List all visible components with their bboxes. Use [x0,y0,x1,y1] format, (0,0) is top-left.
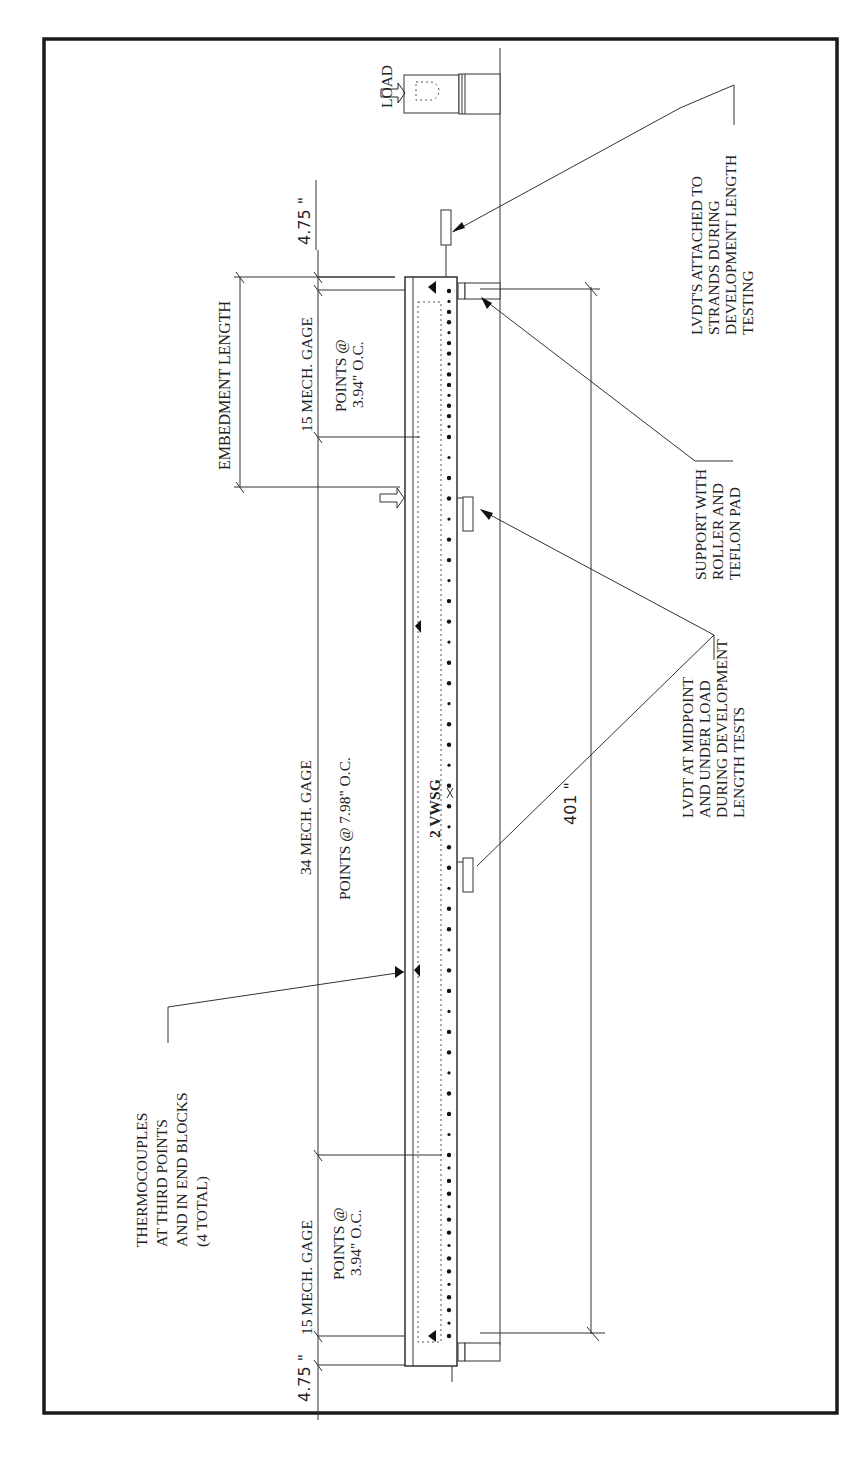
gage-point [447,518,450,521]
label-line: 3.94" O.C. [347,1209,364,1276]
gage-point [447,681,451,685]
gage-point [447,1295,451,1299]
label-line: STRANDS DURING [705,200,722,335]
leader-lvdt-mid-1 [481,510,714,635]
leader-support [482,298,695,461]
gage-point [447,702,450,705]
gage-point [447,394,450,397]
thermocouple-icon [428,1330,436,1342]
load-label: LOAD [378,65,395,108]
gage-point [447,414,451,418]
gage-point [447,1283,450,1286]
gage-point [447,341,451,345]
support-bottom [458,1343,500,1361]
gage-point [447,351,451,355]
lvdt-body [463,497,473,531]
gage-point [447,1030,451,1034]
thermocouple-icon [428,281,436,294]
gage-point [447,1091,451,1095]
gage-point [447,558,451,562]
gage-point [447,372,451,376]
label-line: AND UNDER LOAD [696,680,713,818]
gage-point [447,435,451,439]
embedment-length-label: EMBEDMENT LENGTH [216,301,233,470]
label-line: TEFLON PAD [726,487,743,580]
gage-point [447,1153,451,1157]
mech-gage-points [447,289,451,1338]
arrowhead-icon [480,509,493,520]
gage-point [447,784,451,788]
arrowhead-icon [395,966,404,978]
gage-point [447,722,451,726]
gage-point [447,743,451,747]
beam-instrumentation-diagram: LOAD LVDT'S ATTACHED TO STRANDS DURING D… [0,0,852,1461]
gage-mid-count: 34 MECH. GAGE [297,760,314,875]
gage-point [447,1050,451,1054]
gage-point [447,948,450,951]
load-cell [404,75,459,113]
label-line: SUPPORT WITH [692,469,709,580]
leader-lvdt-strands [453,108,680,232]
thermocouples-label: THERMOCOUPLES AT THIRD POINTS AND IN END… [133,1092,211,1247]
gage-point [447,887,450,890]
label-line: DEVELOPMENT LENGTH [722,155,739,335]
leader-thermocouples [168,972,404,1007]
support-pad [458,283,465,299]
gage-point [447,845,451,849]
gage-point [447,764,450,767]
gage-point [447,537,451,541]
label-line: 3.94" O.C. [349,341,366,408]
dim-end-bottom: 4.75 " [295,1354,314,1402]
lvdt-strand-body [441,210,451,245]
lvdt-third-point [457,497,473,531]
gage-point [447,989,451,993]
gage-point [447,1308,451,1312]
label-line: (4 TOTAL) [193,1176,211,1247]
gage-point [447,1179,451,1183]
label-line: POINTS @ [332,340,349,412]
tick [587,1327,599,1341]
gage-point [447,1192,451,1196]
gage-point [447,599,451,603]
gage-point [447,1133,450,1136]
label-line: ROLLER AND [709,483,726,580]
thermocouple-icon [414,964,420,977]
gage-point [447,1166,450,1169]
gage-point [447,425,450,428]
gage-point [447,825,450,828]
label-line: DURING DEVELOPMENT [713,639,730,818]
leader-lvdt-strands-2 [680,85,734,108]
support-roller [465,1343,500,1361]
gage-point [447,661,451,665]
gage-point [447,383,451,387]
lvdt-midpoint [457,858,473,892]
gage-point [447,1256,451,1260]
gage-point [447,804,451,808]
gage-point [447,907,451,911]
lvdt-body [463,858,473,892]
gage-point [447,1322,450,1325]
vwsg-label: 2 VWSG [426,779,443,838]
lvdt-strand-top [441,210,451,277]
gage-point [447,619,451,623]
gage-mid-spacing: POINTS @ 7.98" O.C. [336,757,353,900]
label-line: LVDT'S ATTACHED TO [688,176,705,335]
load-point-arrow-icon [380,488,404,508]
gage-bot-spacing: POINTS @ 3.94" O.C. [330,1208,364,1280]
gage-point [447,1269,451,1273]
support-roller [465,283,500,299]
gage-point [447,476,451,480]
gage-point [447,641,450,644]
gage-point [447,1217,451,1221]
gage-point [447,866,451,870]
label-line: TESTING [739,270,756,335]
gage-point [447,1244,450,1247]
label-line: LENGTH TESTS [730,707,747,818]
support-top [458,283,500,299]
gage-point [447,927,451,931]
label-line: POINTS @ [330,1208,347,1280]
gage-point [447,1230,451,1234]
gage-point [447,1334,451,1338]
gage-point [447,331,450,334]
gage-point [447,496,451,500]
